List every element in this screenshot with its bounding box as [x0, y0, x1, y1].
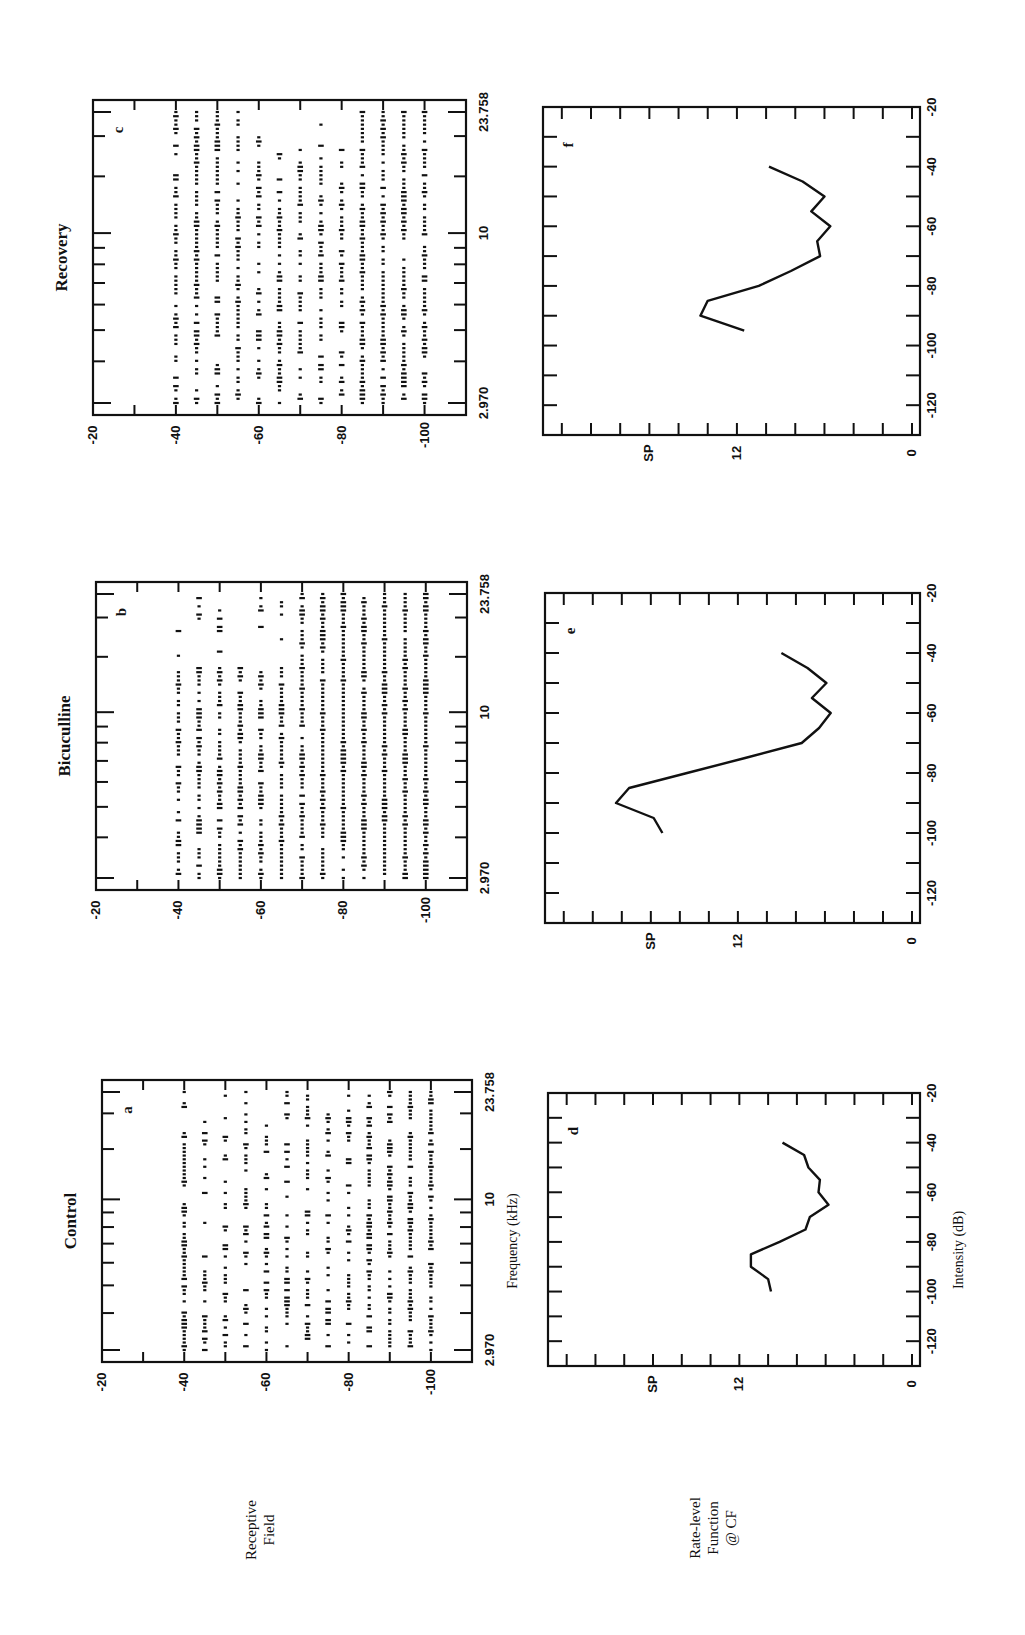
spike-dot	[224, 1181, 227, 1183]
spike-dot	[195, 347, 198, 349]
spike-dot	[383, 873, 386, 875]
spike-dot	[174, 284, 177, 286]
spike-dot	[279, 712, 285, 714]
spike-dot	[239, 778, 242, 780]
spike-dot	[382, 170, 385, 172]
spike-dot	[361, 762, 367, 764]
spike-dot	[277, 275, 283, 277]
spike-dot	[362, 832, 365, 834]
spike-dot	[265, 1308, 268, 1310]
spike-dot	[236, 296, 239, 298]
spike-dot	[244, 1196, 247, 1198]
spike-dot	[256, 334, 262, 336]
spike-dot	[259, 762, 262, 764]
spike-dot	[321, 708, 324, 710]
intensity-tick-label: -20	[924, 98, 939, 117]
spike-dot	[361, 233, 364, 235]
spike-dot	[224, 1154, 227, 1156]
spike-dot	[299, 162, 302, 164]
spike-dot	[321, 782, 324, 784]
spike-dot	[299, 187, 302, 189]
spike-dot	[299, 613, 305, 615]
spike-dot	[196, 708, 202, 710]
spike-dot	[285, 1226, 288, 1228]
spike-dot	[285, 1267, 288, 1269]
spike-dot	[408, 1270, 414, 1272]
spike-dot	[422, 351, 428, 353]
spike-dot	[327, 1169, 330, 1171]
spike-dot	[306, 1151, 309, 1153]
spike-dot	[423, 187, 426, 189]
spike-dot	[306, 1113, 309, 1115]
spike-dot	[321, 626, 324, 628]
spike-dot	[174, 313, 177, 315]
spike-dot	[280, 819, 283, 821]
spike-dot	[401, 111, 407, 113]
spike-dot	[402, 157, 405, 159]
spike-dot	[237, 848, 243, 850]
spike-dot	[429, 1095, 432, 1097]
spike-dot	[176, 741, 182, 743]
spike-dot	[284, 1297, 290, 1299]
spike-dot	[197, 778, 200, 780]
spike-dot	[265, 1263, 268, 1265]
spike-dot	[299, 368, 302, 370]
spike-dot	[197, 753, 200, 755]
spike-dot	[327, 1334, 330, 1336]
spike-dot	[409, 1154, 412, 1156]
spike-dot	[280, 766, 283, 768]
spike-dot	[402, 326, 405, 328]
spike-dot	[429, 1308, 432, 1310]
spike-dot	[224, 1297, 227, 1299]
spike-dot	[259, 786, 262, 788]
spike-dot	[380, 221, 386, 223]
spike-dot	[306, 1173, 309, 1175]
spike-dot	[299, 753, 305, 755]
spike-dot	[404, 848, 407, 850]
spike-dot	[173, 385, 179, 387]
spike-dot	[216, 157, 219, 159]
spike-dot	[409, 1289, 412, 1291]
spike-dot	[176, 840, 182, 842]
spike-dot	[256, 187, 262, 189]
frequency-tick-label: 2.970	[477, 862, 492, 895]
spike-dot	[340, 389, 343, 391]
spike-dot	[429, 1199, 432, 1201]
spike-dot	[264, 1270, 270, 1272]
spike-dot	[361, 385, 364, 387]
spike-dot	[342, 729, 345, 731]
spike-dot	[244, 1312, 247, 1314]
spike-dot	[217, 651, 223, 653]
spike-dot	[387, 1121, 393, 1123]
spike-dot	[258, 753, 264, 755]
spike-dot	[366, 1315, 372, 1317]
spike-dot	[320, 679, 326, 681]
spike-dot	[183, 1267, 186, 1269]
spike-dot	[320, 873, 326, 875]
spike-dot	[244, 1091, 247, 1093]
spike-dot	[243, 1308, 249, 1310]
spike-dot	[301, 679, 304, 681]
spike-dot	[195, 132, 198, 134]
spike-dot	[203, 1285, 206, 1287]
spike-dot	[342, 704, 345, 706]
spike-dot	[404, 646, 407, 648]
spike-dot	[321, 758, 324, 760]
spike-dot	[305, 1323, 311, 1325]
spike-dot	[404, 651, 407, 653]
spike-dot	[259, 877, 262, 879]
spike-dot	[361, 124, 364, 126]
spike-dot	[327, 1128, 330, 1130]
spike-dot	[388, 1330, 391, 1332]
spike-dot	[299, 254, 302, 256]
spike-dot	[409, 1244, 412, 1246]
rate-level-panel-e: SP120-20-40-60-80-100-120e	[545, 584, 939, 950]
spike-dot	[342, 803, 345, 805]
spike-dot	[321, 819, 324, 821]
spike-dot	[239, 729, 242, 731]
spike-dot	[236, 221, 239, 223]
spike-dot	[297, 351, 303, 353]
spike-dot	[361, 296, 364, 298]
spike-dot	[409, 1184, 412, 1186]
spike-dot	[388, 1095, 391, 1097]
